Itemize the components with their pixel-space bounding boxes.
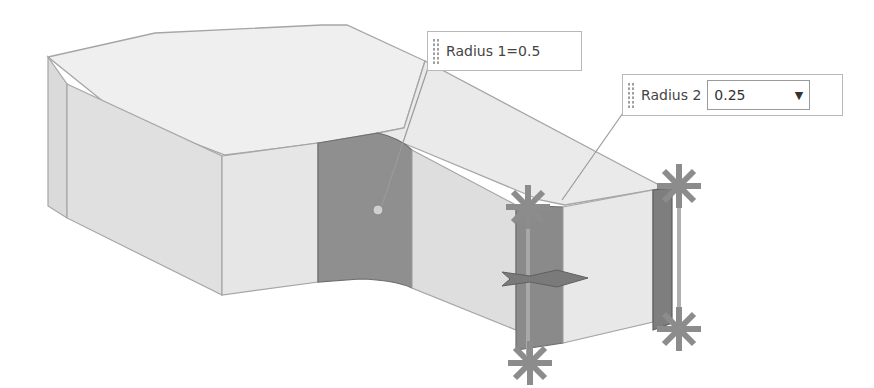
drag-grip-icon[interactable] [432, 38, 440, 64]
drag-grip-icon[interactable] [627, 82, 635, 108]
radius1-callout[interactable]: Radius 1=0.5 [427, 31, 582, 71]
radius2-value-combobox[interactable]: 0.25 ▼ [707, 80, 810, 110]
radius2-value[interactable]: 0.25 [714, 87, 745, 103]
radius1-point-marker [373, 205, 383, 215]
front-face [222, 143, 318, 295]
right-front-face [563, 190, 653, 343]
left-chamfer-face [48, 57, 67, 218]
radius2-label: Radius 2 [641, 87, 701, 103]
radius2-callout[interactable]: Radius 2 0.25 ▼ [622, 74, 843, 116]
radius1-label: Radius 1=0.5 [446, 43, 548, 59]
fillet-face-radius2-right [653, 188, 672, 330]
handle-asterisk-icon [508, 341, 552, 385]
chevron-down-icon[interactable]: ▼ [795, 89, 803, 102]
cad-viewport[interactable]: Radius 1=0.5 Radius 2 0.25 ▼ [0, 0, 874, 388]
